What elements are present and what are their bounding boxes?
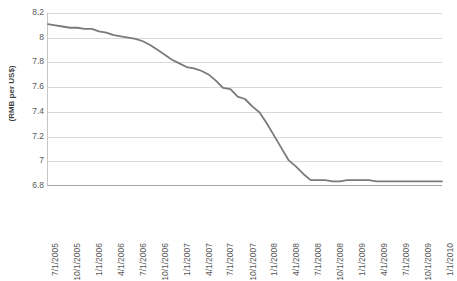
x-axis-tick-label: 7/1/2009 <box>402 243 411 276</box>
x-axis-tick-label: 1/1/2008 <box>270 243 279 276</box>
x-axis-tick-label: 7/1/2007 <box>227 243 236 276</box>
y-axis-title-label: (RMB per US$) <box>7 65 16 121</box>
x-axis-tick-label: 1/1/2007 <box>183 243 192 276</box>
x-axis-tick-label: 4/1/2006 <box>117 243 126 276</box>
x-axis-tick-label: 1/1/2006 <box>95 243 104 276</box>
y-axis-tick-label: 8 <box>18 33 44 42</box>
y-axis-tick-labels: 8.287.87.67.47.276.8 <box>18 0 44 200</box>
x-axis-tick-label: 10/1/2008 <box>336 243 345 281</box>
y-axis-tick-label: 6.8 <box>18 181 44 190</box>
x-axis-tick-label: 10/1/2009 <box>424 243 433 281</box>
y-axis-tick-label: 7 <box>18 156 44 165</box>
series-polyline <box>48 24 442 181</box>
y-axis-tick-label: 7.6 <box>18 82 44 91</box>
plot-area <box>47 13 442 186</box>
x-axis-tick-labels: 7/1/200510/1/20051/1/20064/1/20067/1/200… <box>47 187 442 252</box>
y-axis-tick-label: 7.4 <box>18 107 44 116</box>
x-axis-tick-label: 7/1/2008 <box>314 243 323 276</box>
y-axis-tick-label: 7.8 <box>18 57 44 66</box>
x-axis-tick-label: 10/1/2006 <box>161 243 170 281</box>
x-axis-tick-label: 1/1/2010 <box>446 243 455 276</box>
series-line-rmb-per-usd <box>48 13 442 185</box>
y-axis-tick-label: 8.2 <box>18 8 44 17</box>
x-axis-tick-label: 4/1/2009 <box>380 243 389 276</box>
x-axis-tick-label: 10/1/2005 <box>73 243 82 281</box>
y-axis-tick-label: 7.2 <box>18 132 44 141</box>
x-axis-tick-label: 7/1/2005 <box>51 243 60 276</box>
x-axis-tick-label: 7/1/2006 <box>139 243 148 276</box>
x-axis-tick-label: 4/1/2008 <box>292 243 301 276</box>
x-axis-tick-label: 1/1/2009 <box>358 243 367 276</box>
x-axis-tick-label: 10/1/2007 <box>249 243 258 281</box>
x-axis-tick-label: 4/1/2007 <box>205 243 214 276</box>
